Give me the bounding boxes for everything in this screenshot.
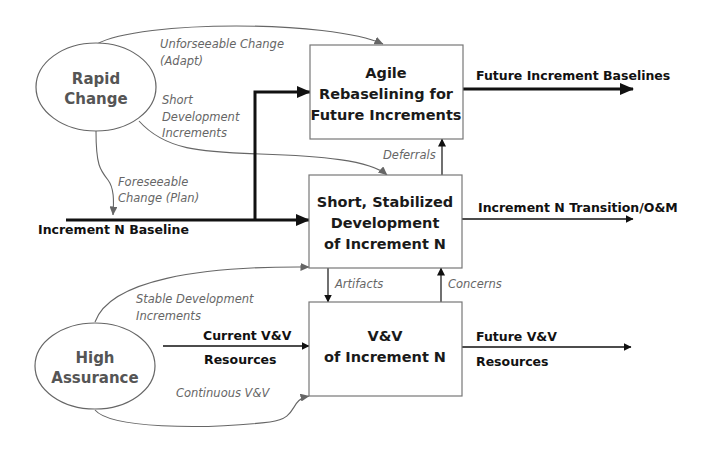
short-stabilized-label-2: Development xyxy=(331,215,440,231)
unforeseeable-label-2: (Adapt) xyxy=(160,54,203,68)
vv-increment-box: V&V of Increment N xyxy=(309,302,462,396)
vv-increment-label-1: V&V xyxy=(367,328,403,344)
future-vv-label-2: Resources xyxy=(476,354,549,369)
short-stabilized-development-box: Short, Stabilized Development of Increme… xyxy=(309,175,462,268)
rapid-change-label-2: Change xyxy=(64,90,127,108)
short-dev-label-2: Development xyxy=(162,110,240,124)
current-vv-label-2: Resources xyxy=(204,352,277,367)
increment-baseline-label: Increment N Baseline xyxy=(38,222,189,237)
process-diagram: Rapid Change High Assurance Agile Rebase… xyxy=(0,0,713,452)
stable-label-1: Stable Development xyxy=(136,292,254,306)
foreseeable-label-1: Foreseeable xyxy=(118,175,188,189)
future-baselines-label: Future Increment Baselines xyxy=(476,68,670,83)
continuous-vv-label: Continuous V&V xyxy=(176,386,270,400)
current-vv-label-1: Current V&V xyxy=(203,328,292,343)
agile-rebaselining-label-3: Future Increments xyxy=(311,107,462,123)
agile-rebaselining-box: Agile Rebaselining for Future Increments xyxy=(310,45,463,139)
deferrals-label: Deferrals xyxy=(383,148,436,162)
high-assurance-node: High Assurance xyxy=(35,323,155,409)
rapid-change-label-1: Rapid xyxy=(72,70,120,88)
rapid-change-node: Rapid Change xyxy=(36,43,156,131)
future-vv-label-1: Future V&V xyxy=(476,329,557,344)
high-assurance-label-1: High xyxy=(75,349,114,367)
vv-increment-label-2: of Increment N xyxy=(324,349,446,365)
high-assurance-label-2: Assurance xyxy=(51,369,138,387)
short-stabilized-label-3: of Increment N xyxy=(324,236,446,252)
artifacts-label: Artifacts xyxy=(334,277,383,291)
short-stabilized-label-1: Short, Stabilized xyxy=(317,194,453,210)
short-dev-label-1: Short xyxy=(162,93,193,107)
transition-om-label: Increment N Transition/O&M xyxy=(478,200,678,215)
short-dev-label-3: Increments xyxy=(162,126,227,140)
foreseeable-label-2: Change (Plan) xyxy=(118,191,199,205)
foreseeable-change-arrow xyxy=(96,131,113,215)
concerns-label: Concerns xyxy=(448,277,502,291)
agile-rebaselining-label-1: Agile xyxy=(365,65,407,81)
stable-label-2: Increments xyxy=(136,309,201,323)
unforeseeable-label-1: Unforseeable Change xyxy=(160,37,284,51)
agile-rebaselining-label-2: Rebaselining for xyxy=(319,86,454,102)
